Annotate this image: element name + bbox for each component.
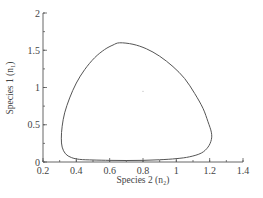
center-point-marker: [142, 91, 143, 92]
x-tick-label: 1.4: [237, 165, 250, 176]
x-tick-label: 0.4: [70, 165, 83, 176]
x-tick-label: 0.6: [103, 165, 116, 176]
limit-cycle-curve: [61, 43, 211, 161]
tick-labels: 0.20.40.60.811.21.400.511.52: [28, 8, 250, 177]
x-tick-label: 1.2: [203, 165, 216, 176]
phase-plot: 0.20.40.60.811.21.400.511.52 Species 2 (…: [0, 0, 263, 198]
x-axis-label: Species 2 (n₂): [117, 175, 170, 186]
x-tick-label: 1: [174, 165, 179, 176]
y-tick-label: 1.5: [28, 45, 41, 56]
y-tick-label: 2: [35, 8, 40, 19]
ticks: [43, 13, 243, 162]
axes: [43, 13, 243, 162]
y-tick-label: 0.5: [28, 119, 41, 130]
y-axis-label: Species 1 (n₁): [5, 62, 16, 115]
y-tick-label: 1: [35, 82, 40, 93]
y-tick-label: 0: [35, 157, 40, 168]
annotations: [142, 91, 143, 92]
